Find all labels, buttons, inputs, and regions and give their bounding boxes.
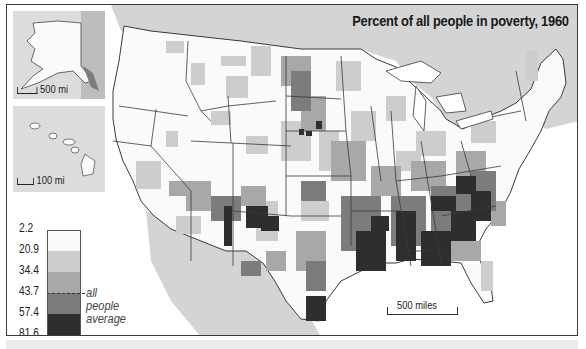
hawaii-scale-label: 100 mi [37,174,65,186]
map-title: Percent of all people in poverty, 1960 [352,12,569,29]
alaska-inset: 500 mi [13,11,105,99]
legend-swatch-2 [47,251,81,272]
legend-swatch-5 [47,314,81,336]
alaska-scale: 500 mi [17,83,68,95]
legend-break-5: 81.6 [19,326,39,336]
legend-break-2: 34.4 [19,263,39,277]
legend-break-1: 20.9 [19,242,39,256]
hawaii-scale: 100 mi [17,174,65,186]
legend-break-3: 43.7 [19,284,39,298]
map-frame: 500 mi 100 mi Percent of all people in p… [6,4,578,336]
legend-break-4: 57.4 [19,305,39,319]
average-label-line2: average [86,312,126,325]
legend-swatch-1 [47,230,81,252]
hawaii-scale-bar [17,178,34,185]
bottom-band [6,340,578,349]
legend-break-0: 2.2 [19,221,33,235]
alaska-scale-bar [17,87,37,94]
average-dashed-line [47,293,85,294]
average-label-line1: all people [86,286,126,312]
alaska-scale-label: 500 mi [40,83,68,95]
hawaii-inset: 100 mi [13,106,105,192]
average-label: all people average [86,286,126,325]
scale-bar-label: 500 miles [397,299,437,311]
legend-swatch-4 [47,293,81,314]
legend-swatch-3 [47,272,81,293]
